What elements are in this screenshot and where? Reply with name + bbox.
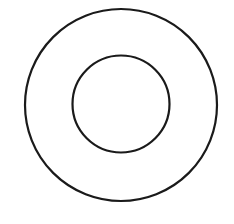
diagram-canvas	[0, 0, 234, 224]
inner-circle	[73, 56, 170, 153]
outer-circle	[25, 9, 217, 201]
concentric-circles-diagram	[0, 0, 234, 224]
